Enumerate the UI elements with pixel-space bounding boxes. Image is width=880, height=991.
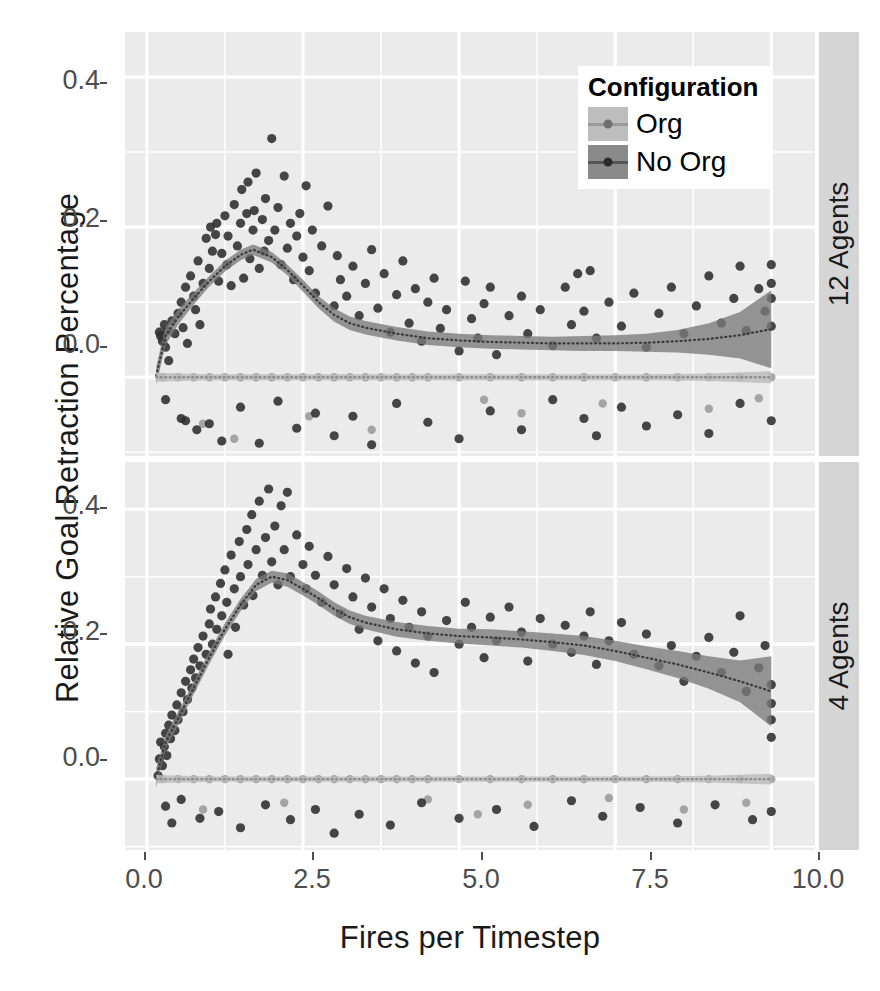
legend-key-no-org-icon <box>588 145 628 179</box>
legend-item-org[interactable]: Org <box>588 105 758 143</box>
facet-label-top: 12 Agents <box>823 182 855 307</box>
x-tick-label-0: 0.0 <box>99 864 189 895</box>
y-tickmark-bottom-0.2 <box>100 633 107 635</box>
x-tick-label-1: 2.5 <box>267 864 357 895</box>
x-tickmark-1 <box>312 852 314 860</box>
y-axis-title: Relative Goal Retraction Percentage <box>50 68 86 828</box>
y-tickmark-top-0.0 <box>100 346 107 348</box>
y-tick-top-0.4: 0.4 <box>22 83 100 84</box>
y-tick-bottom-0.4: 0.4 <box>22 508 100 509</box>
legend: Configuration Org No Org <box>578 66 770 189</box>
y-tick-top-0.0: 0.0 <box>22 347 100 348</box>
x-tick-label-2: 5.0 <box>436 864 526 895</box>
y-tickmark-bottom-0.0 <box>100 759 107 761</box>
legend-title: Configuration <box>588 72 758 103</box>
y-tickmark-top-0.2 <box>100 220 107 222</box>
facet-strip-12-agents: 12 Agents <box>819 32 859 456</box>
x-tick-label-3: 7.5 <box>605 864 695 895</box>
x-tick-label-4: 10.0 <box>773 864 863 895</box>
chart-root: Relative Goal Retraction Percentage 0.4 … <box>0 0 880 991</box>
y-tickmark-top-0.4 <box>100 82 107 84</box>
legend-label-no-org: No Org <box>636 148 726 176</box>
legend-item-no-org[interactable]: No Org <box>588 143 758 181</box>
y-tick-bottom-0.2: 0.2 <box>22 634 100 635</box>
y-tick-bottom-0.0: 0.0 <box>22 760 100 761</box>
x-tickmark-2 <box>481 852 483 860</box>
legend-key-org-icon <box>588 107 628 141</box>
y-tick-top-0.2: 0.2 <box>22 221 100 222</box>
x-tickmark-4 <box>818 852 820 860</box>
panel-4-agents <box>125 462 815 850</box>
y-tickmark-bottom-0.4 <box>100 507 107 509</box>
facet-label-bottom: 4 Agents <box>823 602 855 711</box>
facet-strip-4-agents: 4 Agents <box>819 462 859 850</box>
x-tickmark-0 <box>144 852 146 860</box>
legend-label-org: Org <box>636 110 683 138</box>
x-tickmark-3 <box>650 852 652 860</box>
x-axis-title: Fires per Timestep <box>120 920 820 956</box>
